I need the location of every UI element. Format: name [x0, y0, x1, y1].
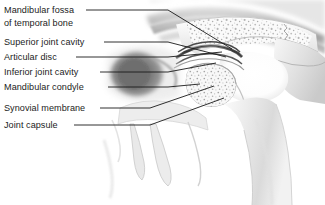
label-mandibular-condyle: Mandibular condyle	[4, 82, 84, 92]
label-synovial-membrane: Synovial membrane	[4, 103, 85, 113]
label-list: Mandibular fossa of temporal bone Superi…	[4, 5, 85, 130]
label-mandibular-fossa-line2: of temporal bone	[4, 18, 73, 28]
label-superior-joint-cavity: Superior joint cavity	[4, 37, 85, 47]
label-joint-capsule: Joint capsule	[4, 120, 58, 130]
tmj-anatomy-figure: Mandibular fossa of temporal bone Superi…	[0, 0, 325, 205]
label-articular-disc: Articular disc	[4, 52, 57, 62]
label-inferior-joint-cavity: Inferior joint cavity	[4, 67, 79, 77]
figure-canvas: Mandibular fossa of temporal bone Superi…	[0, 0, 325, 205]
preauricular-soft-tissue	[106, 46, 180, 103]
label-mandibular-fossa-line1: Mandibular fossa	[4, 5, 75, 15]
